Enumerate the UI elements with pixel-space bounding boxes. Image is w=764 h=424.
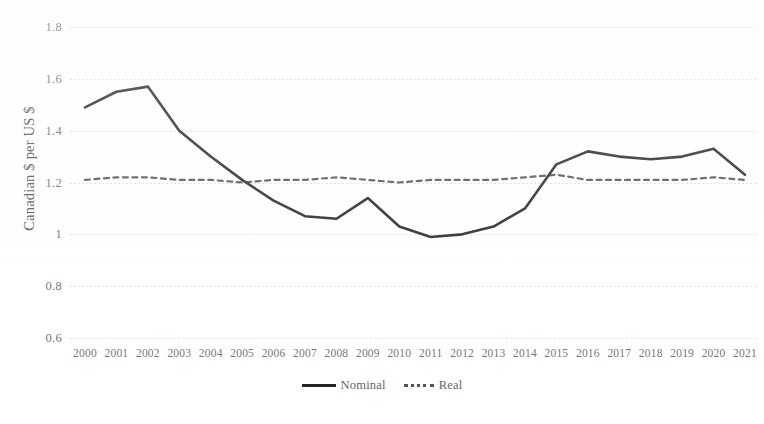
x-axis-tick-label: 2010 [387, 347, 411, 359]
y-axis-tick-label: 1.4 [45, 123, 62, 138]
x-axis-tick-label: 2003 [167, 347, 191, 359]
x-axis-tick-label: 2020 [702, 347, 726, 359]
y-axis-tick-label: 0.8 [45, 279, 62, 294]
legend-entry-nominal[interactable]: Nominal [302, 378, 386, 393]
x-axis-tick-label: 2004 [199, 347, 223, 359]
x-axis-tick-label: 2012 [450, 347, 474, 359]
x-axis-tick-label: 2011 [419, 347, 442, 359]
x-axis-tick-label: 2018 [639, 347, 663, 359]
series-layer [70, 27, 757, 338]
chart-legend: NominalReal [0, 378, 764, 393]
x-axis-tick-label: 2000 [73, 347, 97, 359]
y-axis-tick-label: 1.2 [45, 175, 62, 190]
x-axis-tick-label: 2007 [293, 347, 317, 359]
x-axis-tick-label: 2019 [670, 347, 694, 359]
y-axis-title: Canadian $ per US $ [21, 54, 38, 284]
x-axis-tick-label: 2009 [356, 347, 380, 359]
x-axis-tick-label: 2005 [230, 347, 254, 359]
legend-entry-real[interactable]: Real [404, 378, 463, 393]
x-axis-tick-label: 2016 [576, 347, 600, 359]
legend-swatch-real [404, 384, 434, 387]
x-axis-tick-label: 2014 [513, 347, 537, 359]
nominal-series-line [85, 87, 745, 237]
x-axis-tick-label: 2002 [136, 347, 160, 359]
y-axis-tick-label: 1.6 [45, 71, 62, 86]
real-series-line [85, 175, 745, 183]
legend-label: Nominal [341, 378, 386, 393]
x-axis-tick-label: 2008 [325, 347, 349, 359]
x-axis-tick-label: 2015 [545, 347, 569, 359]
y-axis-tick-label: 1.8 [45, 20, 62, 35]
plot-area: 0.60.811.21.41.61.8 20002001200220032004… [70, 27, 757, 338]
x-axis-tick-label: 2021 [733, 347, 757, 359]
x-axis-tick-label: 2006 [262, 347, 286, 359]
exchange-rate-line-chart: Canadian $ per US $ 0.60.811.21.41.61.8 … [0, 0, 764, 424]
y-axis-tick-label: 0.6 [45, 331, 62, 346]
y-axis-tick-label: 1 [55, 227, 62, 242]
x-axis-tick-label: 2013 [482, 347, 506, 359]
legend-label: Real [439, 378, 463, 393]
x-axis-tick-label: 2001 [105, 347, 129, 359]
legend-swatch-nominal [302, 384, 336, 387]
gridline [70, 338, 757, 339]
x-axis-tick-label: 2017 [607, 347, 631, 359]
